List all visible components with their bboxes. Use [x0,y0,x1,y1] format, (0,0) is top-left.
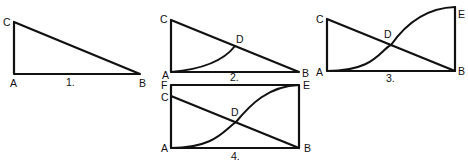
caption-2: 2. [230,71,239,83]
label-a: A [316,66,323,78]
label-c: C [3,16,11,28]
label-f: F [161,79,167,91]
label-e: E [458,8,465,20]
geometry-figures: C A B 1. C D A B 2. C D E A B 3. F C D E… [0,0,468,167]
triangle-abc [14,22,140,74]
caption-4: 4. [231,150,240,162]
figure-3: C D E A B 3. [316,7,465,84]
curve-ad [171,46,235,72]
label-b: B [139,77,146,89]
label-d: D [384,28,392,40]
figure-1: C A B 1. [3,16,146,89]
label-d: D [236,33,244,45]
label-d: D [231,106,239,118]
caption-1: 1. [66,76,75,88]
label-c: C [160,13,168,25]
figure-2: C D A B 2. [160,13,309,83]
label-e: E [303,79,310,91]
label-c: C [316,13,324,25]
caption-3: 3. [386,72,395,84]
label-b: B [304,142,311,154]
label-a: A [161,142,168,154]
label-b: B [458,65,465,77]
label-b: B [302,67,309,79]
label-a: A [10,77,17,89]
figure-4: F C D E A B 4. [161,79,311,162]
label-c: C [161,91,169,103]
